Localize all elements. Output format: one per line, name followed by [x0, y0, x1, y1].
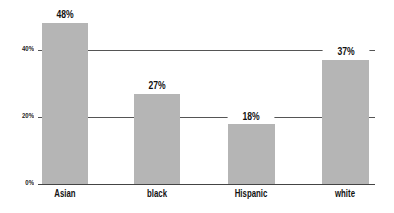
right-tick-40	[370, 50, 375, 51]
x-label-black: black	[126, 188, 188, 199]
value-label-hispanic: 18%	[228, 110, 275, 122]
right-tick-20	[370, 117, 375, 118]
x-label-hispanic: Hispanic	[220, 188, 282, 199]
x-axis	[38, 184, 375, 185]
x-label-white: white	[314, 188, 376, 199]
value-label-asian: 48%	[42, 8, 89, 20]
bar-asian	[42, 23, 88, 184]
bar-white	[322, 60, 369, 184]
bar-hispanic	[228, 124, 275, 184]
y-tick-label-40: 40%	[12, 44, 35, 53]
value-label-black: 27%	[134, 79, 181, 91]
y-tick-label-20: 20%	[12, 111, 35, 120]
bar-chart: 0% 20% 40% 48% 27% 18% 37% Asian black H…	[0, 0, 394, 213]
value-label-white: 37%	[323, 45, 370, 57]
y-tick-label-0: 0%	[12, 178, 35, 187]
bar-black	[134, 94, 180, 184]
x-label-asian: Asian	[34, 188, 96, 199]
